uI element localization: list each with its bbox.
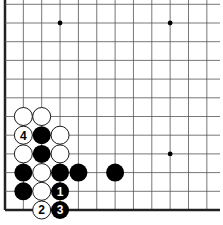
stone-disc: [14, 108, 32, 126]
white-stone: [51, 126, 69, 144]
stone-disc: [14, 145, 32, 163]
move-number-label: 2: [38, 203, 45, 217]
white-stone: [14, 145, 32, 163]
stone-disc: [51, 145, 69, 163]
white-stone-4: 4: [14, 126, 32, 144]
star-point: [58, 21, 63, 26]
move-number-label: 3: [57, 203, 64, 217]
stone-disc: [33, 126, 51, 144]
white-stone: [33, 108, 51, 126]
black-stone: [51, 164, 69, 182]
stone-disc: [106, 164, 124, 182]
black-stone-1: 1: [51, 182, 69, 200]
white-stone: [33, 182, 51, 200]
star-point: [168, 21, 173, 26]
move-number-label: 1: [57, 185, 64, 199]
white-stone-2: 2: [33, 201, 51, 219]
white-stone: [14, 108, 32, 126]
black-stone: [33, 126, 51, 144]
black-stone-3: 3: [51, 201, 69, 219]
black-stone: [69, 164, 87, 182]
stone-disc: [33, 108, 51, 126]
stone-disc: [33, 164, 51, 182]
black-stone: [14, 182, 32, 200]
black-stone: [14, 164, 32, 182]
go-board: 4123: [0, 0, 223, 225]
stone-disc: [14, 182, 32, 200]
white-stone: [33, 164, 51, 182]
stone-disc: [14, 164, 32, 182]
stone-disc: [33, 182, 51, 200]
white-stone: [51, 145, 69, 163]
black-stone: [33, 145, 51, 163]
black-stone: [106, 164, 124, 182]
stones-layer: 4123: [14, 108, 124, 220]
stone-disc: [33, 145, 51, 163]
stone-disc: [51, 126, 69, 144]
star-point: [168, 152, 173, 157]
stone-disc: [51, 164, 69, 182]
stone-disc: [69, 164, 87, 182]
move-number-label: 4: [20, 129, 27, 143]
